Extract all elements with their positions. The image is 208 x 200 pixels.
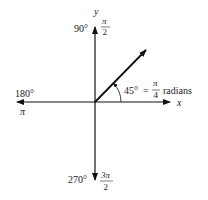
y-axis-label: y: [93, 6, 99, 17]
label-180-radians: π: [20, 106, 26, 117]
label-270-degrees: 270°: [68, 174, 87, 185]
label-90-radians-num: π: [102, 16, 107, 26]
angle-ray: [95, 50, 146, 102]
angle-diagram: y 90° π 2 180° π x 45° = π 4 radians 270…: [0, 0, 208, 200]
label-45-radians-den: 4: [154, 90, 159, 100]
label-45-degrees: 45°: [124, 85, 138, 96]
label-45-radians-num: π: [153, 78, 158, 88]
label-90-degrees: 90°: [74, 23, 88, 34]
label-radians-unit: radians: [163, 85, 192, 96]
label-270-radians-num: 3π: [100, 170, 111, 180]
x-axis-label: x: [176, 97, 182, 108]
label-270-radians-den: 2: [104, 182, 109, 192]
label-90-radians-den: 2: [103, 27, 108, 37]
label-180-degrees: 180°: [15, 88, 34, 99]
label-equals: =: [143, 85, 149, 96]
angle-arc: [114, 84, 122, 103]
